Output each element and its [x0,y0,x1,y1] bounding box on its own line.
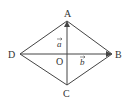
label-a: A [64,8,72,19]
label-b: B [115,49,122,60]
edge-da [20,21,67,54]
vector-b-label: b [80,57,85,67]
vector-a-label: a [57,39,62,49]
edge-bc [67,54,112,85]
label-d: D [8,49,15,60]
label-o: O [56,56,63,67]
label-c: C [63,88,70,99]
edge-ab [67,21,112,54]
rhombus-diagram: A B C D O a b [0,0,130,103]
